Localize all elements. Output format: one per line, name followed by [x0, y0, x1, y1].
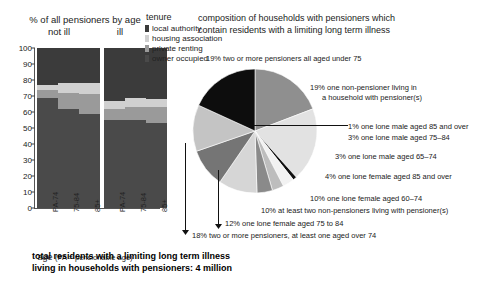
bar-segment — [146, 123, 167, 208]
x-tick-label: 75-84 — [139, 193, 148, 212]
y-tick-mark — [31, 144, 35, 145]
callout-4pct-female-85: 4% one lone female aged 85 and over — [325, 172, 452, 182]
y-tick-mark — [31, 112, 35, 113]
bar-segment — [146, 107, 167, 123]
y-tick-label: 100 — [19, 44, 32, 53]
bar-stack — [104, 48, 125, 208]
callout-12pct-female-75-84: 12% one lone female aged 75 to 84 — [225, 219, 343, 229]
leader-line-18pct-vertical — [185, 143, 186, 232]
y-tick-mark — [31, 176, 35, 177]
bar-segment — [125, 48, 146, 98]
bar-group-label-ill: ill — [100, 26, 140, 37]
y-tick-mark — [31, 96, 35, 97]
y-tick-mark — [31, 160, 35, 161]
pie-svg — [190, 66, 320, 196]
x-tick-label: PA-74 — [51, 192, 60, 212]
leader-arrow-18pct — [182, 230, 189, 235]
callout-19pct-line-1: 19% one non-pensioner living in — [310, 83, 422, 93]
callout-18pct-two-pensioners: 18% two or more pensioners, at least one… — [192, 231, 376, 241]
bar-group-labels: not ill ill — [6, 26, 164, 38]
pie-title-line-2: contain residents with a limiting long t… — [198, 25, 498, 37]
bar-segment — [37, 48, 58, 85]
bar-segment — [79, 114, 100, 208]
footer-total: total residents with a limiting long ter… — [32, 250, 362, 274]
y-tick-mark — [31, 48, 35, 49]
callout-19pct-line-2: a household with pensioner(s) — [310, 93, 422, 103]
bar-segment — [125, 107, 146, 120]
callout-10pct-two-non-pensioners: 10% at least two non-pensioners living w… — [261, 206, 448, 216]
bar-stack — [37, 48, 58, 208]
pie-graphic — [190, 66, 320, 196]
bar-segment — [58, 93, 79, 109]
bar-segment — [104, 48, 125, 101]
leader-line-12pct-vertical — [218, 170, 219, 226]
bar-segment — [58, 48, 79, 83]
footer-line-1: total residents with a limiting long ter… — [32, 250, 362, 262]
legend-swatch-icon — [145, 35, 149, 42]
bar-segment — [125, 98, 146, 108]
bar-segment — [79, 48, 100, 83]
y-tick-mark — [31, 64, 35, 65]
footer-line-2: living in households with pensioners: 4 … — [32, 262, 362, 274]
bar-segment — [146, 99, 167, 107]
legend-swatch-icon — [145, 55, 149, 62]
bar-stack — [79, 48, 100, 208]
bar-segment — [79, 94, 100, 113]
bar-group-label-not-ill: not ill — [32, 26, 86, 37]
y-tick-mark — [31, 128, 35, 129]
bar-segment — [58, 83, 79, 93]
y-tick-mark — [31, 208, 35, 209]
bar-chart-title: % of all pensioners by age — [6, 14, 164, 25]
legend-swatch-icon — [145, 25, 149, 32]
bar-segment — [79, 83, 100, 94]
bar-segment — [37, 90, 58, 98]
bar-segment — [37, 85, 58, 90]
pie-title-line-1: composition of households with pensioner… — [198, 13, 498, 25]
x-tick-label: 85+ — [93, 199, 102, 212]
y-tick-mark — [31, 80, 35, 81]
bar-segment — [104, 101, 125, 109]
callout-3pct-male-65-74: 3% one lone male aged 65–74 — [335, 152, 437, 162]
leader-arrow-12pct — [215, 224, 222, 229]
bar-stack — [146, 48, 167, 208]
x-tick-label: 75-84 — [72, 193, 81, 212]
callout-19pct-under-75: 19% two or more pensioners all aged unde… — [206, 54, 362, 64]
legend-swatch-icon — [145, 45, 149, 52]
callout-10pct-female-60-74: 10% one lone female aged 60–74 — [310, 194, 422, 204]
bar-stack — [125, 48, 146, 208]
x-tick-label: 85+ — [160, 199, 169, 212]
bar-segment — [104, 109, 125, 120]
pie-chart-title: composition of households with pensioner… — [198, 13, 498, 36]
pie-chart-panel: composition of households with pensioner… — [170, 0, 501, 284]
bar-stack — [58, 48, 79, 208]
y-tick-mark — [31, 192, 35, 193]
infographic-root: % of all pensioners by age not ill ill 0… — [0, 0, 501, 284]
callout-19pct-non-pensioner: 19% one non-pensioner living in a househ… — [310, 83, 422, 102]
x-tick-label: PA-74 — [118, 192, 127, 212]
callout-1pct-male-85: 1% one lone male aged 85 and over — [348, 122, 469, 132]
callout-3pct-male-75-84: 3% one lone male aged 75–84 — [348, 133, 450, 143]
bar-plot-area: 0102030405060708090100 PA-7475-8485+PA-7… — [35, 48, 160, 208]
leader-line-thin-slices — [254, 125, 348, 126]
